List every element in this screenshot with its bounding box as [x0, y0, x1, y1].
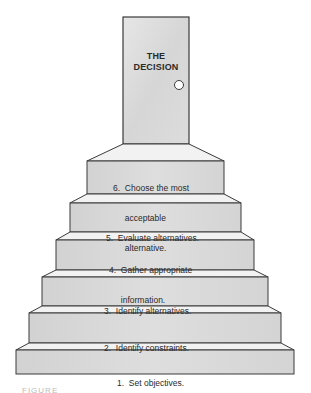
door-title-line-2: DECISION [123, 62, 189, 73]
step-6-label-line-1: 6. Choose the most [113, 183, 189, 193]
door-title-line-1: THE [123, 51, 189, 62]
step-4-label-line-1: 4. Gather appropriate [109, 265, 192, 275]
step-5-label-line-1: 5. Evaluate alternatives. [106, 233, 199, 243]
step-1-label: 1. Set objectives. [117, 358, 184, 393]
figure-caption: FIGURE [22, 386, 58, 393]
door-knob-icon [175, 81, 184, 90]
top-landing [87, 144, 224, 161]
decision-staircase-diagram: THE DECISION 6. Choose the most acceptab… [0, 0, 311, 393]
door-title: THE DECISION [123, 51, 189, 73]
step-3-label-line-1: 3. Identify alternatives. [104, 306, 191, 316]
step-1-label-line-1: 1. Set objectives. [117, 378, 184, 388]
step-2-label-line-1: 2. Identify constraints. [104, 343, 189, 353]
door [123, 17, 189, 144]
